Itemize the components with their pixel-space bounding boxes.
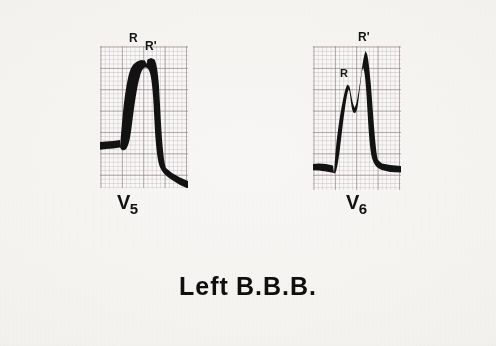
lead-label-v6-subscript: 6: [359, 200, 367, 217]
ecg-trace-v6: [313, 46, 401, 190]
caption-word-bbb: B.B.B.: [236, 272, 317, 300]
ecg-trace-v5: [100, 46, 188, 188]
wave-label-r-prime-v6: R': [358, 31, 370, 43]
wave-label-r-prime-v5: R': [145, 40, 157, 52]
lead-label-v6: V6: [346, 192, 367, 216]
lead-label-v5-subscript: 5: [130, 200, 138, 217]
lead-label-v5: V5: [117, 192, 138, 216]
lead-label-v6-letter: V: [346, 191, 359, 213]
ecg-panel-v5: R R': [100, 46, 188, 188]
figure-caption: LeftB.B.B.: [0, 274, 496, 299]
ecg-strip-v5: [100, 46, 188, 188]
wave-label-r-v6: R: [340, 68, 348, 79]
caption-word-left: Left: [179, 272, 229, 300]
ecg-strip-v6: [313, 46, 401, 190]
figure-page: R R' V5 R R': [0, 0, 496, 346]
ecg-panel-v6: R R': [313, 46, 401, 190]
wave-label-r-v5: R: [129, 32, 138, 44]
lead-label-v5-letter: V: [117, 191, 130, 213]
